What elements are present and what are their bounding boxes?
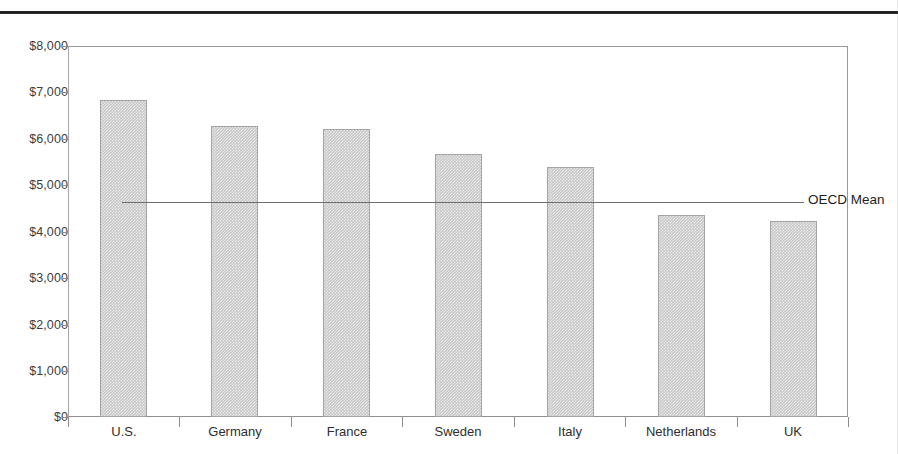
x-axis-label-germany: Germany <box>179 424 291 440</box>
bar-france[interactable] <box>323 129 370 417</box>
y-axis-label-2000: $2,000 <box>8 319 68 331</box>
bar-us[interactable] <box>100 100 147 417</box>
top-divider-rule <box>0 11 898 14</box>
bar-sweden[interactable] <box>435 154 482 417</box>
bar-germany[interactable] <box>211 126 258 417</box>
x-axis-label-us: U.S. <box>68 424 180 440</box>
x-axis-label-uk: UK <box>737 424 849 440</box>
y-axis-label-1000: $1,000 <box>8 365 68 377</box>
y-axis-label-4000: $4,000 <box>8 226 68 238</box>
y-axis-label-0: $0 <box>8 411 68 423</box>
y-axis-label-6000: $6,000 <box>8 133 68 145</box>
chart-page: $8,000 $7,000 $6,000 $5,000 $4,000 $3,00… <box>0 0 898 454</box>
bar-italy[interactable] <box>547 167 594 417</box>
y-axis: $8,000 $7,000 $6,000 $5,000 $4,000 $3,00… <box>0 0 68 454</box>
x-axis-label-sweden: Sweden <box>402 424 514 440</box>
oecd-mean-line <box>122 202 804 203</box>
bar-netherlands[interactable] <box>658 215 705 417</box>
x-axis-label-france: France <box>291 424 403 440</box>
y-axis-label-8000: $8,000 <box>8 40 68 52</box>
y-axis-label-3000: $3,000 <box>8 272 68 284</box>
x-axis-label-netherlands: Netherlands <box>625 424 737 440</box>
bar-uk[interactable] <box>770 221 817 417</box>
x-axis-label-italy: Italy <box>514 424 626 440</box>
oecd-mean-label: OECD Mean <box>808 193 885 207</box>
y-axis-label-7000: $7,000 <box>8 86 68 98</box>
y-axis-label-5000: $5,000 <box>8 179 68 191</box>
